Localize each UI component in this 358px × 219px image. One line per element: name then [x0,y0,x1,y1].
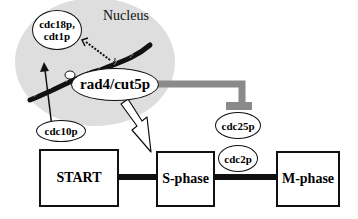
cdc18p-cdt1p-oval: cdc18p, cdt1p [32,10,82,50]
cdc2p-oval: cdc2p [218,145,258,172]
cell-cycle-diagram: Nucleus cdc18p, cdt1p rad4/cut5p cdc10p … [0,0,358,219]
start-label: START [56,170,101,186]
m-phase-box: M-phase [276,151,340,207]
m-phase-label: M-phase [282,171,334,187]
nucleus-label: Nucleus [103,8,149,24]
start-s-connector [117,174,157,180]
rad4-cut5p-oval: rad4/cut5p [71,68,159,101]
cdc2p-label: cdc2p [224,153,252,165]
cdt1p-label: cdt1p [39,30,75,42]
s-m-connector [213,174,277,180]
s-phase-box: S-phase [156,151,215,207]
start-box: START [39,149,119,207]
cdc18p-label: cdc18p, [39,18,75,30]
cdc10p-oval: cdc10p [36,120,86,142]
inhibition-bar [226,102,252,110]
cdc25p-oval: cdc25p [215,112,261,139]
inhibition-line [158,84,242,103]
cdc10p-label: cdc10p [45,125,78,137]
rad4-cut5p-label: rad4/cut5p [80,76,150,93]
cdc25p-label: cdc25p [222,120,255,132]
s-phase-label: S-phase [162,171,209,187]
